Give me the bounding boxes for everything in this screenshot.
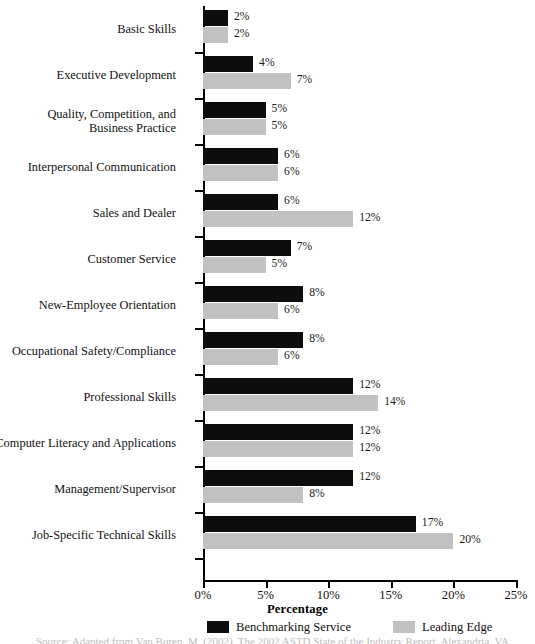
x-axis-tick [203,580,205,588]
category-label: Customer Service [0,252,176,267]
y-axis-tick [195,558,203,560]
bar-benchmarking-service [203,10,228,26]
bar-group: Interpersonal Communication6%6% [203,144,516,190]
bar-benchmarking-service [203,240,291,256]
bar-group: Executive Development4%7% [203,52,516,98]
plot-area: Basic Skills2%2%Executive Development4%7… [203,6,516,581]
bar-value-label: 5% [272,256,287,272]
bar-value-label: 6% [284,193,299,209]
bar-group: Occupational Safety/Compliance8%6% [203,328,516,374]
y-axis-tick [195,282,203,284]
category-label: Occupational Safety/Compliance [0,344,176,359]
y-axis-tick [195,328,203,330]
bar-value-label: 6% [284,164,299,180]
bar-group: Basic Skills2%2% [203,6,516,52]
category-label: Job-Specific Technical Skills [0,528,176,543]
bar-group: New-Employee Orientation8%6% [203,282,516,328]
bar-value-label: 12% [359,440,380,456]
bar-benchmarking-service [203,148,278,164]
y-axis-tick [195,466,203,468]
y-axis-tick [195,236,203,238]
x-axis-tick-label: 0% [195,588,212,603]
bar-leading-edge [203,165,278,181]
x-axis-tick-label: 15% [379,588,402,603]
bar-value-label: 20% [459,532,480,548]
y-axis-tick [195,98,203,100]
bar-leading-edge [203,211,353,227]
bar-benchmarking-service [203,470,353,486]
legend-swatch-icon [207,621,229,633]
bar-leading-edge [203,395,378,411]
bar-group: Quality, Competition, and Business Pract… [203,98,516,144]
bar-group: Job-Specific Technical Skills17%20% [203,512,516,558]
bar-value-label: 12% [359,377,380,393]
chart-legend: Benchmarking Service Leading Edge [203,618,535,636]
bar-value-label: 12% [359,210,380,226]
x-axis-tick [266,580,268,588]
legend-swatch-icon [393,621,415,633]
x-axis-tick [453,580,455,588]
bar-value-label: 5% [272,118,287,134]
category-label: New-Employee Orientation [0,298,176,313]
bar-value-label: 6% [284,348,299,364]
bar-group: Customer Service7%5% [203,236,516,282]
bar-value-label: 4% [259,55,274,71]
bar-leading-edge [203,27,228,43]
bar-value-label: 14% [384,394,405,410]
bar-benchmarking-service [203,194,278,210]
bar-benchmarking-service [203,516,416,532]
category-label: Professional Skills [0,390,176,405]
bar-benchmarking-service [203,424,353,440]
bar-group: Management/Supervisor12%8% [203,466,516,512]
bar-leading-edge [203,441,353,457]
bar-value-label: 6% [284,302,299,318]
y-axis-tick [195,190,203,192]
bar-value-label: 12% [359,469,380,485]
bar-value-label: 5% [272,101,287,117]
x-axis-tick [391,580,393,588]
bar-value-label: 7% [297,239,312,255]
bar-value-label: 8% [309,331,324,347]
y-axis-tick [195,420,203,422]
legend-item-leading-edge: Leading Edge [393,618,492,636]
bar-chart-figure: Basic Skills2%2%Executive Development4%7… [0,0,535,644]
y-axis-tick [195,374,203,376]
bar-value-label: 8% [309,285,324,301]
category-label: Management/Supervisor [0,482,176,497]
bar-value-label: 2% [234,9,249,25]
bar-group: Sales and Dealer6%12% [203,190,516,236]
bar-group: Professional Skills12%14% [203,374,516,420]
x-axis-title: Percentage [0,602,535,617]
x-axis-tick-label: 5% [257,588,274,603]
x-axis-tick-label: 20% [442,588,465,603]
bar-leading-edge [203,349,278,365]
x-axis-tick [516,580,518,588]
bar-leading-edge [203,73,291,89]
category-label: Sales and Dealer [0,206,176,221]
x-axis-tick-label: 10% [317,588,340,603]
bar-value-label: 2% [234,26,249,42]
category-label: Basic Skills [0,22,176,37]
bar-leading-edge [203,303,278,319]
bar-benchmarking-service [203,332,303,348]
legend-item-benchmarking-service: Benchmarking Service [207,618,351,636]
bar-benchmarking-service [203,378,353,394]
bar-leading-edge [203,257,266,273]
bar-value-label: 17% [422,515,443,531]
y-axis-tick [195,512,203,514]
bar-value-label: 7% [297,72,312,88]
category-label: Executive Development [0,68,176,83]
y-axis-tick [195,144,203,146]
legend-label: Leading Edge [422,620,492,635]
bar-leading-edge [203,487,303,503]
bar-benchmarking-service [203,102,266,118]
category-label: Quality, Competition, and Business Pract… [0,107,176,136]
bar-benchmarking-service [203,56,253,72]
bar-value-label: 8% [309,486,324,502]
legend-label: Benchmarking Service [236,620,351,635]
bar-value-label: 6% [284,147,299,163]
y-axis-tick [195,52,203,54]
bar-leading-edge [203,533,453,549]
x-axis-tick [328,580,330,588]
category-label: Interpersonal Communication [0,160,176,175]
